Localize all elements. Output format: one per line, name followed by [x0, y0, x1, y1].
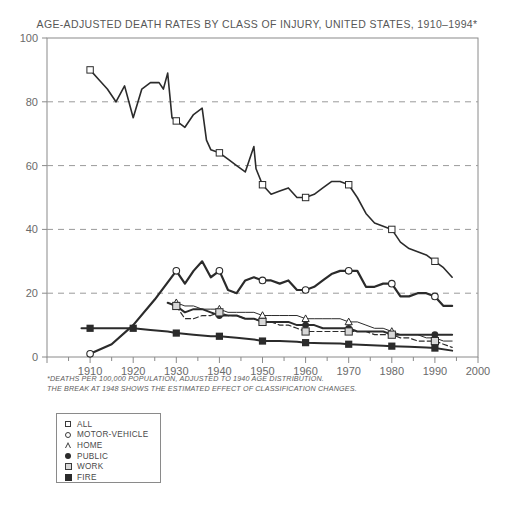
legend-label: FIRE — [77, 473, 97, 482]
marker-square-grey — [216, 309, 223, 316]
marker-square-open — [389, 226, 395, 232]
legend-item-fire[interactable]: FIRE — [65, 472, 160, 483]
chart-footnote: *DEATHS PER 100,000 POPULATION, ADJUSTED… — [47, 374, 357, 394]
ytick-label: 20 — [26, 287, 38, 299]
series-line — [90, 70, 452, 277]
marker-square-open — [216, 150, 222, 156]
marker-circle-open — [87, 351, 94, 358]
xtick-label: 1990 — [423, 365, 447, 377]
marker-square-grey — [302, 328, 309, 335]
marker-square-filled — [345, 341, 352, 348]
legend-marker-square-open-icon — [65, 421, 77, 427]
legend-label: PUBLIC — [77, 452, 108, 461]
circle-open-icon — [65, 432, 71, 438]
marker-circle-open — [345, 268, 352, 275]
marker-circle-open — [389, 280, 396, 287]
marker-square-filled — [431, 344, 438, 351]
marker-square-filled — [302, 339, 309, 346]
series-public — [168, 303, 452, 339]
legend-marker-square-filled-icon — [65, 474, 77, 481]
plot-border — [47, 38, 478, 357]
legend-marker-circle-filled-icon — [65, 453, 77, 459]
marker-square-open — [259, 182, 265, 188]
series-line — [81, 328, 452, 350]
marker-square-grey — [345, 328, 352, 335]
legend-marker-square-grey-icon — [65, 463, 77, 470]
marker-square-open — [346, 182, 352, 188]
marker-square-filled — [130, 325, 137, 332]
marker-square-filled — [87, 325, 94, 332]
ytick-label: 80 — [26, 96, 38, 108]
marker-square-grey — [173, 302, 180, 309]
footnote-line-2: THE BREAK AT 1948 SHOWS THE ESTIMATED EF… — [47, 384, 357, 394]
xtick-label: 1980 — [380, 365, 404, 377]
chart-legend: ALLMOTOR-VEHICLEHOMEPUBLICWORKFIRE — [56, 413, 161, 483]
marker-circle-open — [259, 277, 266, 284]
legend-item-work[interactable]: WORK — [65, 461, 160, 472]
legend-label: MOTOR-VEHICLE — [77, 430, 148, 439]
marker-square-filled — [173, 329, 180, 336]
marker-square-filled — [259, 337, 266, 344]
ytick-label: 0 — [32, 351, 38, 363]
marker-square-filled — [216, 333, 223, 340]
square-grey-icon — [65, 463, 72, 470]
legend-item-motor-vehicle[interactable]: MOTOR-VEHICLE — [65, 430, 160, 441]
legend-item-all[interactable]: ALL — [65, 419, 160, 430]
series-motor-vehicle — [87, 261, 452, 357]
circle-filled-icon — [65, 453, 71, 459]
marker-square-filled — [388, 343, 395, 350]
square-open-icon — [65, 421, 71, 427]
marker-circle-open — [216, 268, 223, 275]
legend-item-public[interactable]: PUBLIC — [65, 451, 160, 462]
legend-item-home[interactable]: HOME — [65, 440, 160, 451]
legend-label: WORK — [77, 462, 103, 471]
marker-circle-open — [173, 268, 180, 275]
footnote-line-1: *DEATHS PER 100,000 POPULATION, ADJUSTED… — [47, 374, 357, 384]
legend-marker-triangle-open-icon — [65, 442, 77, 448]
ytick-label: 40 — [26, 223, 38, 235]
marker-square-open — [87, 67, 93, 73]
triangle-open-icon — [65, 442, 71, 448]
legend-label: HOME — [77, 441, 103, 450]
ytick-label: 100 — [20, 32, 38, 44]
xtick-label: 2000 — [466, 365, 490, 377]
marker-square-grey — [431, 337, 438, 344]
legend-label: ALL — [77, 420, 92, 429]
series-all — [87, 67, 452, 278]
ytick-label: 60 — [26, 160, 38, 172]
series-fire — [81, 325, 452, 352]
series-line — [90, 261, 452, 354]
marker-circle-open — [302, 287, 309, 294]
marker-square-grey — [259, 318, 266, 325]
marker-square-open — [432, 258, 438, 264]
marker-circle-open — [432, 293, 439, 300]
chart-page: AGE-ADJUSTED DEATH RATES BY CLASS OF INJ… — [0, 0, 514, 510]
legend-marker-circle-open-icon — [65, 432, 77, 438]
marker-square-open — [302, 194, 308, 200]
square-filled-icon — [65, 474, 72, 481]
marker-square-grey — [388, 331, 395, 338]
marker-square-open — [173, 118, 179, 124]
